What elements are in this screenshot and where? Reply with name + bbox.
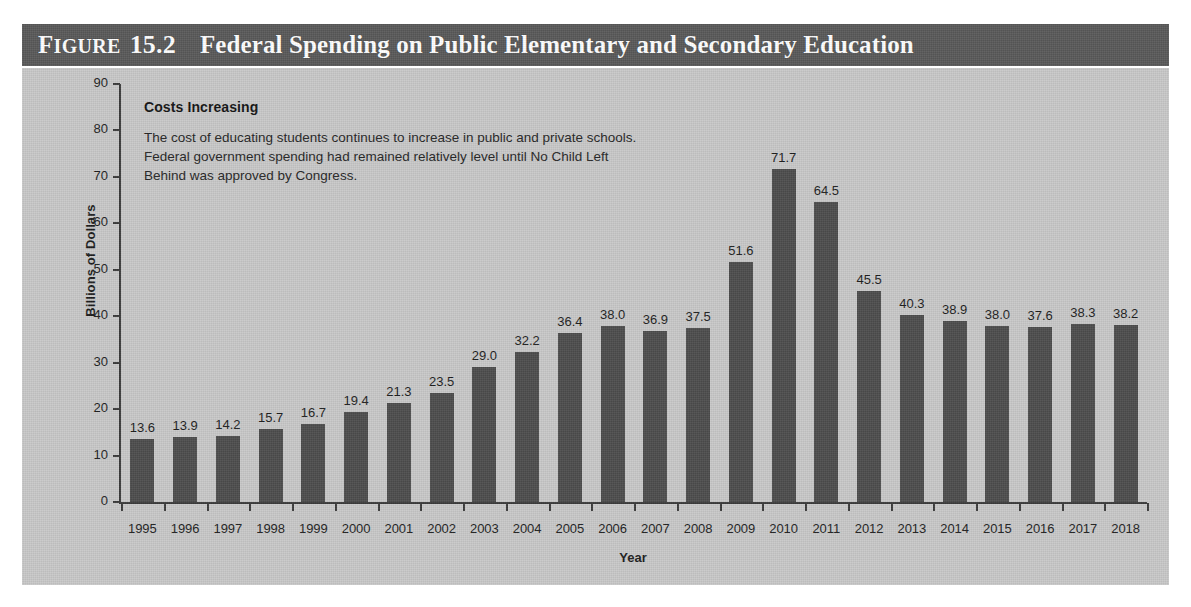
x-axis-tick-label: 2002 <box>427 521 456 536</box>
figure-title: Federal Spending on Public Elementary an… <box>200 31 914 58</box>
x-axis-tick-label: 2017 <box>1068 521 1097 536</box>
bar[interactable] <box>1071 324 1095 502</box>
x-axis-tick <box>121 503 123 511</box>
x-axis-tick-label: 1998 <box>256 521 285 536</box>
bar-slot[interactable]: 38.22018 <box>1104 84 1147 502</box>
x-axis-tick <box>720 503 722 511</box>
x-axis-tick <box>164 503 166 511</box>
x-axis-line <box>119 502 1147 504</box>
bar[interactable] <box>387 403 411 502</box>
bar[interactable] <box>857 291 881 502</box>
x-axis-tick <box>933 503 935 511</box>
bar[interactable] <box>643 331 667 502</box>
bar[interactable] <box>301 424 325 502</box>
bar[interactable] <box>558 333 582 502</box>
bar[interactable] <box>344 412 368 502</box>
bar-slot[interactable]: 19.42000 <box>335 84 378 502</box>
bar[interactable] <box>686 328 710 502</box>
bar-slot[interactable]: 13.61995 <box>121 84 164 502</box>
bar[interactable] <box>515 352 539 502</box>
bar-slot[interactable]: 15.71998 <box>249 84 292 502</box>
bar-slot[interactable]: 71.72010 <box>762 84 805 502</box>
bar[interactable] <box>985 326 1009 502</box>
bar-slot[interactable]: 29.02003 <box>463 84 506 502</box>
bar-value-label: 45.5 <box>856 272 881 287</box>
bar-slot[interactable]: 51.62009 <box>720 84 763 502</box>
bar[interactable] <box>216 436 240 502</box>
bar[interactable] <box>472 367 496 502</box>
bar[interactable] <box>601 326 625 502</box>
x-axis-tick <box>891 503 893 511</box>
bar[interactable] <box>1114 325 1138 502</box>
figure-number: 15.2 <box>130 30 176 59</box>
bar-value-label: 38.3 <box>1070 305 1095 320</box>
bar-slot[interactable]: 37.62016 <box>1019 84 1062 502</box>
bar-slot[interactable]: 38.02015 <box>976 84 1019 502</box>
bar-value-label: 37.6 <box>1027 308 1052 323</box>
bar-slot[interactable]: 23.52002 <box>420 84 463 502</box>
x-axis-tick <box>249 503 251 511</box>
x-axis-tick-label: 2018 <box>1111 521 1140 536</box>
y-axis-tick-label: 70 <box>94 168 108 183</box>
bar-slot[interactable]: 36.42005 <box>549 84 592 502</box>
x-axis-tick-label: 2010 <box>769 521 798 536</box>
bar[interactable] <box>772 169 796 502</box>
x-axis-tick <box>292 503 294 511</box>
bar[interactable] <box>943 321 967 502</box>
x-axis-tick <box>976 503 978 511</box>
x-axis-tick-label: 2004 <box>513 521 542 536</box>
x-axis-tick <box>848 503 850 511</box>
bar[interactable] <box>259 429 283 502</box>
bar-slot[interactable]: 45.52012 <box>848 84 891 502</box>
bar[interactable] <box>729 262 753 502</box>
bar-slot[interactable]: 38.02006 <box>591 84 634 502</box>
x-axis-tick-label: 2007 <box>641 521 670 536</box>
bar-slot[interactable]: 21.32001 <box>378 84 421 502</box>
x-axis-tick <box>1147 503 1149 511</box>
bar[interactable] <box>1028 327 1052 502</box>
bar-slot[interactable]: 16.71999 <box>292 84 335 502</box>
bar-slot[interactable]: 36.92007 <box>634 84 677 502</box>
bar-value-label: 64.5 <box>814 183 839 198</box>
x-axis-tick-label: 2015 <box>983 521 1012 536</box>
x-axis-tick-label: 2016 <box>1026 521 1055 536</box>
x-axis-tick <box>762 503 764 511</box>
bar[interactable] <box>900 315 924 502</box>
bar-slot[interactable]: 64.52011 <box>805 84 848 502</box>
x-axis-tick-label: 1999 <box>299 521 328 536</box>
bar-value-label: 19.4 <box>343 393 368 408</box>
x-axis-tick <box>1062 503 1064 511</box>
bar-slot[interactable]: 38.92014 <box>933 84 976 502</box>
bar-series: 13.6199513.9199614.2199715.7199816.71999… <box>121 84 1147 502</box>
bar-value-label: 23.5 <box>429 374 454 389</box>
bar-slot[interactable]: 32.22004 <box>506 84 549 502</box>
bar[interactable] <box>430 393 454 502</box>
x-axis-tick <box>634 503 636 511</box>
bar-slot[interactable]: 38.32017 <box>1062 84 1105 502</box>
y-axis-tick-label: 20 <box>94 400 108 415</box>
y-axis-tick-label: 90 <box>94 75 108 90</box>
bar-value-label: 36.9 <box>643 312 668 327</box>
figure-container: FIGURE15.2Federal Spending on Public Ele… <box>0 0 1191 607</box>
bar-value-label: 14.2 <box>215 417 240 432</box>
y-axis-tick-label: 10 <box>94 447 108 462</box>
bar-value-label: 21.3 <box>386 384 411 399</box>
bar-value-label: 16.7 <box>301 405 326 420</box>
bar-slot[interactable]: 37.52008 <box>677 84 720 502</box>
y-axis-tick-label: 30 <box>94 354 108 369</box>
bar-value-label: 38.2 <box>1113 306 1138 321</box>
bar-slot[interactable]: 14.21997 <box>207 84 250 502</box>
bar[interactable] <box>814 202 838 502</box>
bar[interactable] <box>173 437 197 502</box>
bar-value-label: 37.5 <box>685 309 710 324</box>
bar-value-label: 13.9 <box>172 418 197 433</box>
bar-value-label: 36.4 <box>557 314 582 329</box>
bar-slot[interactable]: 40.32013 <box>891 84 934 502</box>
x-axis-tick-label: 2012 <box>855 521 884 536</box>
bar-value-label: 38.0 <box>985 307 1010 322</box>
x-axis-tick <box>1019 503 1021 511</box>
x-axis-tick-label: 1996 <box>171 521 200 536</box>
bar-slot[interactable]: 13.91996 <box>164 84 207 502</box>
x-axis-tick <box>591 503 593 511</box>
bar[interactable] <box>130 439 154 502</box>
